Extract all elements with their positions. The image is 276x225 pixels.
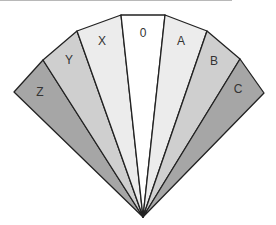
segment-label-b: B bbox=[210, 54, 218, 68]
segment-label-y: Y bbox=[65, 53, 73, 67]
segment-label-0: 0 bbox=[140, 26, 147, 40]
segment-label-a: A bbox=[177, 34, 185, 48]
fan-diagram: ZYX0ABC bbox=[0, 0, 276, 225]
segment-label-x: X bbox=[98, 34, 106, 48]
segment-label-c: C bbox=[234, 82, 243, 96]
segment-label-z: Z bbox=[36, 85, 43, 99]
